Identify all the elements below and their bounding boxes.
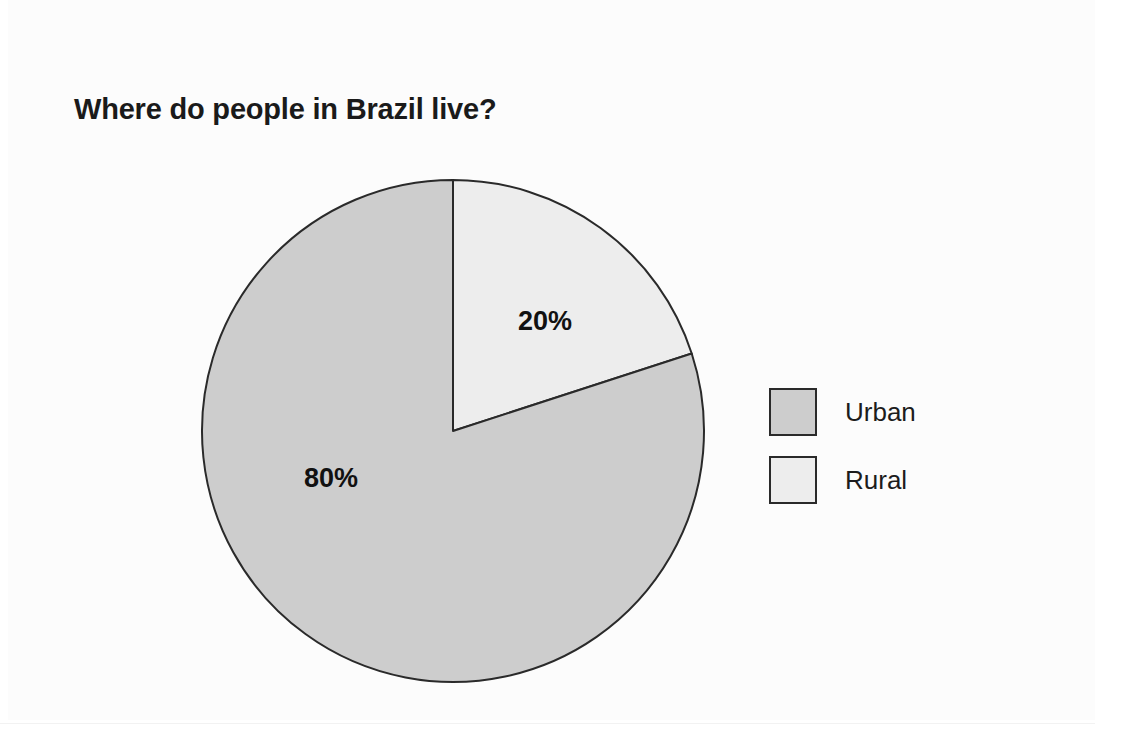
legend-item-urban[interactable]: Urban [769,387,916,437]
pie-chart-svg [200,178,706,684]
chart-legend: Urban Rural [769,387,916,505]
legend-item-rural[interactable]: Rural [769,455,916,505]
pie-slice-label-rural: 20% [518,306,572,337]
scan-edge-bottom [0,723,1095,724]
pie-chart [200,178,706,684]
legend-swatch-urban [769,388,817,436]
scan-tint-right-margin [1095,0,1141,738]
chart-title: Where do people in Brazil live? [74,93,496,126]
legend-label-rural: Rural [845,465,907,496]
pie-slice-label-urban: 80% [304,463,358,494]
chart-canvas: Where do people in Brazil live? 20% 80% … [0,0,1141,738]
legend-label-urban: Urban [845,397,916,428]
scan-edge-left [0,0,8,723]
legend-swatch-rural [769,456,817,504]
